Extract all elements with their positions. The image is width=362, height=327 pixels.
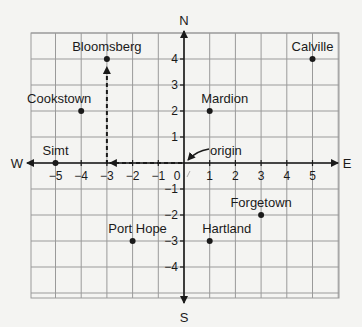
- y-tick-label: 4: [171, 52, 178, 66]
- x-tick-label: 2: [232, 169, 239, 183]
- places: BloomsbergCalvilleCookstownMardionSimtFo…: [27, 39, 333, 244]
- place-dot-icon: [310, 56, 316, 62]
- place-dot-icon: [78, 108, 84, 114]
- x-tick-label: −2: [126, 169, 140, 183]
- x-tick-label: −3: [100, 169, 114, 183]
- north-label: N: [179, 13, 188, 28]
- map-svg: −5−4−3−2−10123454321−1−2−3−4 BloomsbergC…: [0, 0, 362, 327]
- place-dot-icon: [130, 238, 136, 244]
- x-tick-label: 0: [174, 169, 181, 183]
- y-tick-label: −3: [164, 234, 178, 248]
- origin-pointer-icon: [188, 149, 209, 160]
- place-label: Calville: [292, 39, 334, 54]
- coordinate-map: −5−4−3−2−10123454321−1−2−3−4 BloomsbergC…: [0, 0, 362, 327]
- place-label: Simt: [43, 143, 69, 158]
- place-dot-icon: [53, 160, 59, 166]
- place-label: Forgetown: [230, 195, 291, 210]
- x-tick-label: −5: [49, 169, 63, 183]
- x-tick-label: 5: [309, 169, 316, 183]
- place-label: Hartland: [202, 221, 251, 236]
- axes: [27, 31, 338, 303]
- y-tick-label: −2: [164, 208, 178, 222]
- place-label: Cookstown: [27, 91, 91, 106]
- y-tick-label: 3: [171, 78, 178, 92]
- x-tick-label: −1: [151, 169, 165, 183]
- east-label: E: [343, 156, 352, 171]
- y-tick-label: 1: [171, 130, 178, 144]
- place-dot-icon: [207, 238, 213, 244]
- west-label: W: [11, 156, 24, 171]
- place-dot-icon: [104, 56, 110, 62]
- place-label: Mardion: [201, 91, 248, 106]
- origin-label: origin: [210, 143, 242, 158]
- place-label: Bloomsberg: [72, 39, 141, 54]
- x-tick-label: −4: [74, 169, 88, 183]
- x-tick-label: 1: [206, 169, 213, 183]
- y-tick-label: 2: [171, 104, 178, 118]
- grid: [31, 33, 339, 298]
- place-label: Port Hope: [108, 221, 167, 236]
- y-tick-label: −4: [164, 260, 178, 274]
- x-tick-label: 4: [283, 169, 290, 183]
- south-label: S: [180, 310, 189, 325]
- origin-mark: [187, 171, 190, 177]
- place-dot-icon: [258, 212, 264, 218]
- y-tick-label: −1: [164, 182, 178, 196]
- place-dot-icon: [207, 108, 213, 114]
- x-tick-label: 3: [258, 169, 265, 183]
- grid-border: [31, 33, 339, 298]
